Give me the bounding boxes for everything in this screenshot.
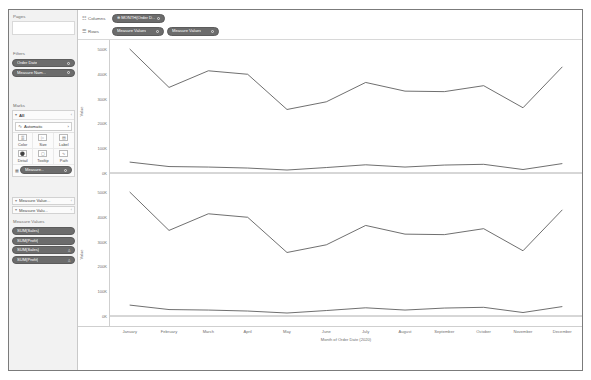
warning-triangle-icon: △ bbox=[68, 246, 70, 254]
y-axis-tick-label: 200K bbox=[97, 264, 107, 269]
x-axis-tick-label: October bbox=[464, 329, 503, 334]
marks-button-label[interactable]: ▤ Label bbox=[54, 133, 74, 149]
measure-pill-sum-sales-2[interactable]: SUM(Sales) △ bbox=[12, 246, 75, 254]
color-palette-icon: ▒ bbox=[18, 134, 27, 141]
marks-button-color[interactable]: ▒ Color bbox=[13, 133, 33, 149]
marks-encoding-pill-measure-names[interactable]: Measure... bbox=[20, 166, 72, 174]
size-icon: ▷ bbox=[38, 134, 47, 141]
measure-pill-label: SUM(Sales) bbox=[17, 227, 39, 235]
columns-pill-label: ⊕ MONTH(Order D... bbox=[117, 14, 155, 23]
path-icon: ∿ bbox=[59, 150, 68, 157]
marks-button-detail[interactable]: ⚫ Detail bbox=[13, 149, 33, 165]
x-axis-tick-label: July bbox=[346, 329, 385, 334]
y-axis-bottom[interactable]: 500K400K300K200K100K0K bbox=[86, 183, 110, 326]
measure-pill-sum-sales-1[interactable]: SUM(Sales) bbox=[12, 227, 75, 235]
chart-panel-top: Value 500K400K300K200K100K0K bbox=[78, 40, 582, 183]
y-axis-title-bottom: Value bbox=[78, 183, 86, 326]
line-mark-icon: ∿ bbox=[18, 124, 22, 129]
line-series-profit[interactable] bbox=[130, 305, 563, 313]
line-chart-top[interactable] bbox=[110, 40, 582, 183]
marks-button-label: Size bbox=[39, 142, 47, 147]
chevron-down-icon[interactable]: › bbox=[68, 124, 69, 129]
chart-panel-bottom: Value 500K400K300K200K100K0K bbox=[78, 183, 582, 326]
x-axis-tick-label: February bbox=[149, 329, 188, 334]
rows-pill-measure-values-1[interactable]: Measure Values bbox=[112, 27, 164, 36]
line-series-sales[interactable] bbox=[130, 49, 563, 110]
rows-shelf-dropzone[interactable]: Measure Values Measure Values bbox=[112, 27, 219, 36]
x-axis-tick-label: June bbox=[307, 329, 346, 334]
y-axis-tick-label: 100K bbox=[97, 289, 107, 294]
measure-pill-sum-profit-2[interactable]: SUM(Profit) △ bbox=[12, 256, 75, 264]
x-axis[interactable]: JanuaryFebruaryMarchAprilMayJuneJulyAugu… bbox=[78, 326, 582, 352]
marks-button-label: Color bbox=[18, 142, 27, 147]
shelf-measure-values-2[interactable]: ▾ Measure Valu... ‹ bbox=[12, 206, 75, 214]
tooltip-icon: ▢ bbox=[38, 150, 47, 157]
rows-pill-label: Measure Values bbox=[172, 27, 201, 36]
y-axis-tick-label: 300K bbox=[97, 96, 107, 101]
x-axis-tick-label: March bbox=[189, 329, 228, 334]
columns-shelf-dropzone[interactable]: ⊕ MONTH(Order D... bbox=[112, 14, 165, 23]
plot-region: Value 500K400K300K200K100K0K Value 500K4… bbox=[78, 40, 582, 370]
warning-triangle-icon: △ bbox=[68, 256, 70, 264]
chevron-down-icon[interactable]: ▾ bbox=[15, 113, 17, 117]
marks-button-label: Path bbox=[60, 158, 68, 163]
rows-pill-measure-values-2[interactable]: Measure Values bbox=[167, 27, 219, 36]
measure-values-shelf[interactable]: SUM(Sales) SUM(Profit) SUM(Sales) △ SUM(… bbox=[9, 225, 78, 264]
x-axis-tick-label: January bbox=[110, 329, 149, 334]
marks-button-tooltip[interactable]: ▢ Tooltip bbox=[33, 149, 53, 165]
shelf-measure-values-1[interactable]: ▾ Measure Value... ‹ bbox=[12, 197, 75, 205]
y-axis-tick-label: 400K bbox=[97, 71, 107, 76]
line-chart-svg bbox=[110, 183, 582, 326]
marks-label: Marks bbox=[9, 103, 78, 109]
marks-button-path[interactable]: ∿ Path bbox=[54, 149, 74, 165]
y-axis-top[interactable]: 500K400K300K200K100K0K bbox=[86, 40, 110, 183]
pill-handle-icon[interactable] bbox=[157, 17, 160, 20]
marks-card-header[interactable]: ▾ All ‹ bbox=[13, 111, 74, 120]
filters-shelf[interactable]: Order Date Measure Nam... bbox=[9, 57, 78, 77]
left-panel: Pages Filters Order Date Measure Nam... bbox=[9, 10, 78, 370]
y-axis-tick-label: 0K bbox=[102, 314, 107, 319]
pill-handle-icon[interactable] bbox=[156, 30, 159, 33]
columns-shelf-row: ☷ Columns ⊕ MONTH(Order D... bbox=[78, 13, 582, 24]
pill-handle-icon[interactable] bbox=[67, 62, 70, 65]
columns-shelf-label-group: ☷ Columns bbox=[78, 16, 112, 21]
detail-icon: ⚫ bbox=[18, 150, 27, 157]
pages-shelf[interactable] bbox=[12, 21, 75, 35]
measure-pill-label: SUM(Profit) bbox=[17, 237, 38, 245]
line-chart-svg bbox=[110, 40, 582, 183]
caret-right-icon[interactable]: ‹ bbox=[71, 113, 72, 117]
chevron-down-icon[interactable]: ▾ bbox=[15, 208, 17, 212]
measure-pill-label: SUM(Profit) bbox=[17, 256, 38, 264]
y-axis-tick-label: 500K bbox=[97, 189, 107, 194]
filter-pill-measure-names[interactable]: Measure Nam... bbox=[12, 69, 75, 77]
filter-pill-order-date[interactable]: Order Date bbox=[12, 59, 75, 67]
filter-pill-label: Measure Nam... bbox=[17, 69, 46, 77]
pill-handle-icon[interactable] bbox=[64, 169, 67, 172]
y-axis-tick-label: 200K bbox=[97, 121, 107, 126]
x-axis-tick-label: April bbox=[228, 329, 267, 334]
mark-type-value: Automatic bbox=[24, 124, 68, 129]
rows-grid-icon: ☰ bbox=[82, 29, 86, 34]
measure-pill-sum-profit-1[interactable]: SUM(Profit) bbox=[12, 237, 75, 245]
marks-encoding-pill-label: Measure... bbox=[25, 166, 44, 174]
shelf-bar: ☷ Columns ⊕ MONTH(Order D... ☰ Rows bbox=[78, 10, 582, 40]
viz-area: ☷ Columns ⊕ MONTH(Order D... ☰ Rows bbox=[78, 10, 582, 370]
pill-handle-icon[interactable] bbox=[211, 30, 214, 33]
line-series-sales[interactable] bbox=[130, 192, 563, 253]
chevron-down-icon[interactable]: ▾ bbox=[15, 199, 17, 203]
marks-button-size[interactable]: ▷ Size bbox=[33, 133, 53, 149]
marks-button-label: Tooltip bbox=[37, 158, 48, 163]
x-axis-tick-label: December bbox=[543, 329, 582, 334]
caret-right-icon[interactable]: ‹ bbox=[71, 208, 72, 212]
rows-shelf-label-group: ☰ Rows bbox=[78, 29, 112, 34]
pages-label: Pages bbox=[9, 14, 78, 20]
shelf-label: Measure Valu... bbox=[19, 208, 71, 213]
line-chart-bottom[interactable] bbox=[110, 183, 582, 326]
caret-right-icon[interactable]: ‹ bbox=[71, 199, 72, 203]
color-chip-icon: ▦ bbox=[15, 168, 19, 173]
line-series-profit[interactable] bbox=[130, 162, 563, 170]
marks-button-label: Detail bbox=[18, 158, 28, 163]
mark-type-dropdown[interactable]: ∿ Automatic › bbox=[15, 122, 72, 131]
columns-pill-month-order-date[interactable]: ⊕ MONTH(Order D... bbox=[112, 14, 165, 23]
pill-handle-icon[interactable] bbox=[67, 71, 70, 74]
